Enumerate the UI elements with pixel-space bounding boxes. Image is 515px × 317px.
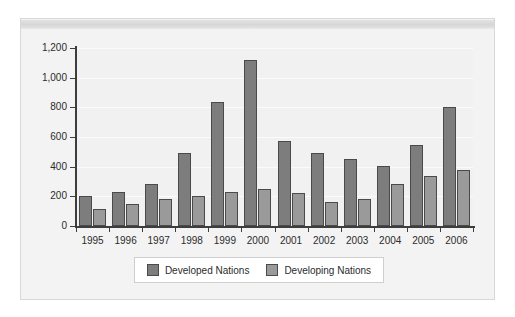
- x-axis-tick-label: 1998: [175, 235, 208, 246]
- chart-figure: 02004006008001,0001,200 1995199619971998…: [20, 18, 495, 300]
- y-axis-tick: [70, 196, 75, 197]
- bar-2003-series1: [358, 199, 371, 226]
- x-axis-tick-label: 1996: [109, 235, 142, 246]
- y-axis-tick: [70, 167, 75, 168]
- y-axis-tick: [70, 78, 75, 79]
- bar-1996-series0: [112, 192, 125, 226]
- legend-swatch-icon: [266, 264, 278, 276]
- x-axis-tick: [275, 228, 276, 232]
- x-axis-tick: [109, 228, 110, 232]
- y-axis-tick: [70, 226, 75, 227]
- x-axis-tick: [208, 228, 209, 232]
- bar-1995-series0: [79, 196, 92, 226]
- bars-layer: [76, 48, 473, 226]
- bar-2004-series0: [377, 166, 390, 226]
- x-axis-tick: [440, 228, 441, 232]
- bar-group: [443, 48, 470, 226]
- y-axis-line: [75, 46, 77, 228]
- bar-group: [344, 48, 371, 226]
- bar-group: [278, 48, 305, 226]
- x-axis-tick: [142, 228, 143, 232]
- legend-item[interactable]: Developing Nations: [266, 264, 371, 276]
- bar-2001-series0: [278, 141, 291, 226]
- legend-label: Developed Nations: [165, 265, 250, 276]
- bar-1999-series0: [211, 102, 224, 226]
- bar-2003-series0: [344, 159, 357, 226]
- bar-1999-series1: [225, 192, 238, 226]
- x-axis-tick: [76, 228, 77, 232]
- y-axis-tick-label: 600: [23, 132, 67, 142]
- x-axis-tick: [175, 228, 176, 232]
- y-axis-tick-label: 800: [23, 102, 67, 112]
- y-axis-labels: 02004006008001,0001,200: [21, 19, 67, 299]
- x-axis-labels: 1995199619971998199920002001200220032004…: [76, 235, 473, 246]
- x-axis-tick-label: 2004: [374, 235, 407, 246]
- y-axis-tick: [70, 137, 75, 138]
- bar-1998-series1: [192, 196, 205, 226]
- figure-header-strip: [21, 20, 494, 29]
- x-axis-tick-label: 2002: [308, 235, 341, 246]
- x-axis-tick: [241, 228, 242, 232]
- bar-2006-series1: [457, 170, 470, 226]
- x-axis-tick-label: 1999: [208, 235, 241, 246]
- x-axis-tick-label: 2006: [440, 235, 473, 246]
- x-axis-tick-label: 2000: [241, 235, 274, 246]
- bar-group: [178, 48, 205, 226]
- bar-group: [244, 48, 271, 226]
- bar-1995-series1: [93, 209, 106, 226]
- bar-group: [145, 48, 172, 226]
- bar-2000-series0: [244, 60, 257, 226]
- x-axis-tick-label: 2003: [341, 235, 374, 246]
- bar-2002-series0: [311, 153, 324, 226]
- y-axis-tick-label: 200: [23, 191, 67, 201]
- x-axis-tick-label: 1997: [142, 235, 175, 246]
- x-axis-tick-label: 1995: [76, 235, 109, 246]
- bar-group: [311, 48, 338, 226]
- bar-2005-series0: [410, 145, 423, 226]
- bar-1997-series0: [145, 184, 158, 226]
- x-axis-tick: [374, 228, 375, 232]
- bar-2001-series1: [292, 193, 305, 226]
- bar-2000-series1: [258, 189, 271, 226]
- x-axis-tick: [407, 228, 408, 232]
- y-axis-tick: [70, 48, 75, 49]
- x-axis-tick: [308, 228, 309, 232]
- x-axis-tick: [473, 228, 474, 232]
- bar-group: [410, 48, 437, 226]
- chart-legend: Developed NationsDeveloping Nations: [134, 257, 384, 283]
- bar-1998-series0: [178, 153, 191, 226]
- y-axis-tick: [70, 107, 75, 108]
- bar-1996-series1: [126, 204, 139, 226]
- legend-swatch-icon: [147, 264, 159, 276]
- bar-2004-series1: [391, 184, 404, 226]
- y-axis-tick-label: 1,000: [23, 73, 67, 83]
- x-axis-tick: [341, 228, 342, 232]
- x-axis-tick-label: 2005: [407, 235, 440, 246]
- y-axis-tick-label: 1,200: [23, 43, 67, 53]
- bar-group: [79, 48, 106, 226]
- x-axis-tick-label: 2001: [275, 235, 308, 246]
- bar-group: [211, 48, 238, 226]
- bar-2005-series1: [424, 176, 437, 226]
- bar-1997-series1: [159, 199, 172, 226]
- legend-label: Developing Nations: [284, 265, 371, 276]
- bar-group: [377, 48, 404, 226]
- legend-item[interactable]: Developed Nations: [147, 264, 250, 276]
- bar-2002-series1: [325, 202, 338, 226]
- plot-area: [76, 48, 473, 226]
- bar-group: [112, 48, 139, 226]
- y-axis-tick-label: 400: [23, 162, 67, 172]
- bar-2006-series0: [443, 107, 456, 226]
- y-axis-tick-label: 0: [23, 221, 67, 231]
